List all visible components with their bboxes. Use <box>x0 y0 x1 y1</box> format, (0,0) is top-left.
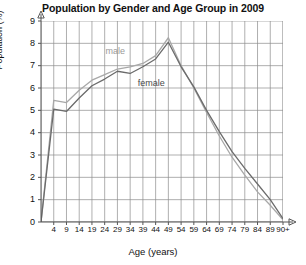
population-line-chart: Population by Gender and Age Group in 20… <box>0 0 306 265</box>
x-axis-label: Age (years) <box>0 246 306 257</box>
x-tick-label: 90+ <box>269 226 297 234</box>
plot-svg <box>41 21 283 222</box>
plot-area <box>41 21 283 222</box>
series-label-female: female <box>138 78 165 88</box>
y-axis-label: Population (%) <box>0 0 4 100</box>
series-label-male: male <box>105 46 125 56</box>
